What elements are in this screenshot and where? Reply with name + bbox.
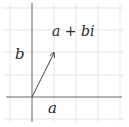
point-label: a + bi — [52, 23, 94, 39]
imag-component-label: b — [15, 45, 25, 63]
real-component-label: a — [48, 99, 57, 117]
complex-plane-diagram: a + bi b a — [0, 0, 129, 127]
